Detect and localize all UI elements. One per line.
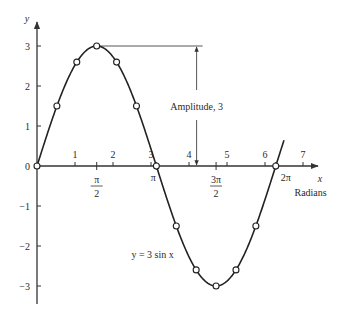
- data-point: [74, 59, 80, 65]
- y-tick-label: −2: [19, 241, 30, 252]
- x-axis-label: x: [317, 173, 323, 184]
- amplitude-label: Amplitude, 3: [170, 101, 223, 112]
- y-axis-label: y: [24, 13, 30, 24]
- x-tick-label: 2: [111, 149, 116, 160]
- data-point: [253, 223, 259, 229]
- pi-tick-denominator: 2: [214, 188, 219, 199]
- data-point: [54, 103, 60, 109]
- pi-tick-label: 2π: [281, 172, 291, 183]
- data-point: [153, 163, 159, 169]
- x-tick-label: 6: [263, 149, 268, 160]
- data-point: [213, 283, 219, 289]
- data-point: [114, 59, 120, 65]
- function-label: y = 3 sin x: [131, 249, 173, 260]
- data-point: [233, 267, 239, 273]
- y-tick-label: 1: [25, 121, 30, 132]
- data-point: [173, 223, 179, 229]
- x-tick-label: 1: [73, 149, 78, 160]
- x-tick-label: 4: [187, 149, 192, 160]
- pi-tick-numerator: π: [94, 174, 99, 185]
- x-axis-units-label: Radians: [294, 187, 326, 198]
- x-tick-label: 7: [301, 149, 306, 160]
- data-point: [34, 163, 40, 169]
- data-point: [94, 43, 100, 49]
- pi-tick-numerator: 3π: [211, 174, 221, 185]
- data-point: [193, 267, 199, 273]
- x-tick-label: 5: [225, 149, 230, 160]
- y-tick-label: 2: [25, 81, 30, 92]
- y-tick-label: 3: [25, 41, 30, 52]
- data-point: [273, 163, 279, 169]
- data-point: [133, 103, 139, 109]
- pi-tick-label: π: [151, 172, 156, 183]
- pi-tick-denominator: 2: [94, 188, 99, 199]
- y-tick-label: −3: [19, 281, 30, 292]
- y-tick-label: −1: [19, 201, 30, 212]
- sine-chart: 1234567π2π3π22π3210−1−2−3 y x Radians y …: [0, 0, 349, 320]
- y-tick-label: 0: [25, 161, 30, 172]
